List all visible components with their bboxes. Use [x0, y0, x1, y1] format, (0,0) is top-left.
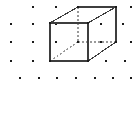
lattice-diagram-svg: [0, 0, 138, 113]
lattice-point: [38, 77, 41, 80]
lattice-point: [94, 77, 97, 80]
lattice-point: [75, 77, 78, 80]
lattice-point: [55, 41, 58, 44]
lattice-point: [32, 6, 35, 9]
lattice-point: [130, 77, 133, 80]
cube-corner-front-bottom-left: [49, 60, 52, 63]
lattice-point: [122, 23, 125, 26]
cube-body-center-point: [77, 41, 80, 44]
lattice-figure: [0, 0, 138, 113]
cube-corner-front-top-right: [87, 22, 90, 25]
lattice-point: [32, 41, 35, 44]
cube-corner-front-bottom-right: [87, 60, 90, 63]
figure-background: [0, 0, 138, 113]
lattice-point: [130, 41, 133, 44]
lattice-point: [100, 41, 103, 44]
lattice-point: [130, 6, 133, 9]
lattice-point: [10, 23, 13, 26]
lattice-point: [19, 77, 22, 80]
lattice-point: [32, 60, 35, 63]
lattice-point: [10, 41, 13, 44]
lattice-point: [100, 23, 103, 26]
lattice-point: [112, 77, 115, 80]
cube-corner-back-bottom-right: [115, 41, 118, 44]
lattice-point: [10, 60, 13, 63]
lattice-point: [124, 60, 127, 63]
cube-corner-back-top-right: [115, 6, 118, 9]
lattice-point: [32, 23, 35, 26]
lattice-point: [105, 60, 108, 63]
cube-corner-front-top-left: [49, 22, 52, 25]
cube-center-point: [77, 41, 80, 44]
lattice-point: [55, 6, 58, 9]
lattice-point: [56, 77, 59, 80]
cube-corner-back-top-left: [77, 6, 80, 9]
